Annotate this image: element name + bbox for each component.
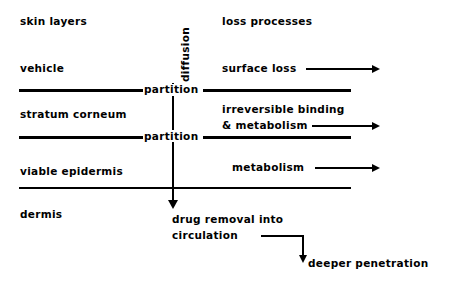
outcome-deeper-penetration: deeper penetration — [308, 257, 428, 270]
skin-layer-vehicle: vehicle — [20, 62, 64, 75]
loss-process-metabolism-label: metabolism — [232, 161, 304, 174]
column-header-skin-layers: skin layers — [20, 15, 87, 28]
diffusion-connector-segment — [172, 96, 174, 130]
skin-layer-stratum-corneum: stratum corneum — [20, 108, 127, 121]
boundary-line-1-left — [19, 89, 144, 92]
boundary-line-1-right — [203, 89, 351, 92]
loss-process-metabolism-sub-label: & metabolism — [222, 119, 308, 132]
skin-permeation-diagram: skin layers loss processes diffusion veh… — [0, 0, 450, 284]
partition-label-2: partition — [143, 131, 199, 142]
skin-layer-viable-epidermis: viable epidermis — [20, 165, 123, 178]
boundary-line-3 — [19, 187, 351, 189]
outcome-drug-removal-line2: circulation — [172, 229, 238, 242]
loss-process-surface-loss-label: surface loss — [222, 62, 296, 75]
boundary-line-2-right — [203, 136, 351, 139]
column-header-loss-processes: loss processes — [222, 15, 312, 28]
skin-layer-dermis: dermis — [20, 208, 62, 221]
boundary-line-2-left — [19, 136, 144, 139]
loss-process-irreversible-binding-label: irreversible binding — [222, 103, 345, 116]
outcome-drug-removal-line1: drug removal into — [172, 213, 283, 226]
diffusion-axis-label: diffusion — [179, 27, 191, 82]
partition-label-1: partition — [143, 84, 199, 95]
